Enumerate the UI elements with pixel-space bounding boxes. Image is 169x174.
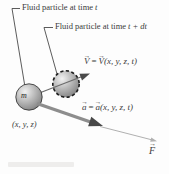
acceleration-symbol: a bbox=[82, 102, 87, 112]
fluid-particle-figure: Fluid particle at timet Fluid particle a… bbox=[0, 0, 169, 174]
mass-label: m bbox=[21, 91, 27, 100]
faded-caption-artifact bbox=[8, 162, 74, 167]
fluid-particle-t-sphere bbox=[16, 84, 42, 110]
velocity-symbol: V bbox=[84, 56, 90, 66]
callout-particle-t-variable: t bbox=[95, 2, 97, 12]
leader-line-particle-t bbox=[12, 9, 25, 88]
velocity-function-symbol: V bbox=[99, 56, 105, 66]
acceleration-function-symbol: a bbox=[96, 102, 101, 112]
acceleration-equals-sign: = bbox=[89, 102, 94, 112]
callout-particle-t-dt-variable: t + dt bbox=[128, 21, 147, 31]
force-label: F bbox=[149, 145, 155, 156]
force-vector-shaft bbox=[100, 127, 153, 141]
acceleration-vector-arrowhead-icon bbox=[88, 117, 103, 126]
callout-particle-t-dt: Fluid particle at timet + dt bbox=[55, 22, 147, 31]
leader-line-particle-t-dt bbox=[44, 28, 57, 75]
fluid-particle-t-dt-sphere bbox=[53, 71, 79, 97]
velocity-vector-arrowhead-icon bbox=[79, 74, 90, 81]
callout-particle-t-dt-text: Fluid particle at time bbox=[55, 21, 126, 31]
acceleration-function-args: (x, y, z, t) bbox=[100, 102, 133, 112]
callout-particle-t-text: Fluid particle at time bbox=[22, 2, 93, 12]
velocity-equals-sign: = bbox=[92, 56, 97, 66]
acceleration-equation: a=a(x, y, z, t) bbox=[82, 102, 133, 112]
force-symbol: F bbox=[149, 145, 155, 156]
velocity-equation: V=V(x, y, z, t) bbox=[84, 56, 137, 66]
position-coordinates-label: (x, y, z) bbox=[12, 119, 37, 129]
callout-particle-t: Fluid particle at timet bbox=[22, 3, 97, 12]
velocity-function-args: (x, y, z, t) bbox=[104, 56, 137, 66]
